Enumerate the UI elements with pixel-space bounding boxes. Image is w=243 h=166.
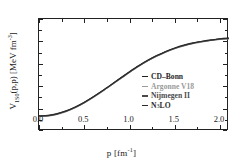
legend-item: N3LO xyxy=(142,101,194,111)
series-line xyxy=(39,39,229,117)
x-axis-title: p [fm-1] xyxy=(0,146,243,158)
legend: CD–Bonn Argonne V18 Nijmegen II N3LO xyxy=(142,72,194,110)
legend-label-tail: LO xyxy=(160,101,171,111)
x-tick-label: 1.5 xyxy=(157,115,191,124)
series-line xyxy=(39,39,229,117)
legend-line-swatch xyxy=(142,76,148,77)
legend-label: CD–Bonn xyxy=(151,72,183,82)
x-axis-title-tail: ] xyxy=(133,148,136,158)
legend-item: Argonne V18 xyxy=(142,82,194,92)
x-tick-label: 1.0 xyxy=(112,115,146,124)
legend-item: CD–Bonn xyxy=(142,72,194,82)
x-tick-label: 0.0 xyxy=(21,115,55,124)
series-line xyxy=(39,38,229,116)
x-axis-title-main: p [fm xyxy=(107,148,128,158)
figure: 15 0 -15 -30 -45 -60 xyxy=(0,0,243,166)
legend-label: Nijmegen II xyxy=(151,91,190,101)
legend-label: Argonne V18 xyxy=(151,82,194,92)
legend-item: Nijmegen II xyxy=(142,91,194,101)
y-axis-title-tail: ] xyxy=(8,32,18,35)
y-axis-title-superscript: -3 xyxy=(6,35,13,40)
y-axis-title-symbol: V xyxy=(8,103,18,110)
legend-line-swatch xyxy=(142,105,148,106)
y-axis-title-mid: (p,p) [MeV fm xyxy=(8,40,18,93)
legend-line-swatch xyxy=(142,86,148,87)
x-tick-label: 0.5 xyxy=(66,115,100,124)
y-axis-title-subscript: 1S0 xyxy=(13,93,20,103)
legend-line-swatch xyxy=(142,95,148,96)
y-axis-title: V1S0(p,p) [MeV fm-3] xyxy=(6,6,20,136)
series-line xyxy=(39,38,229,116)
x-tick-label: 2.0 xyxy=(202,115,236,124)
